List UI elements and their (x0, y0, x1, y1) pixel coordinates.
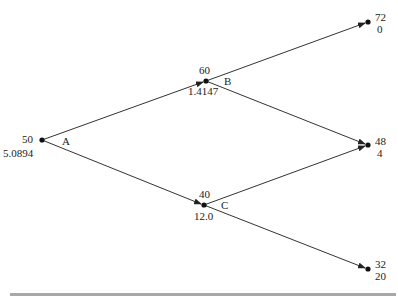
node-a-value: 5.0894 (3, 147, 34, 159)
node-t1-dot (365, 19, 370, 24)
bottom-rule (10, 293, 396, 296)
node-t3-price: 32 (375, 258, 386, 270)
node-b-value: 1.4147 (188, 85, 219, 97)
binomial-tree-diagram: 50 5.0894 A 60 1.4147 B 40 12.0 C 72 0 4… (0, 0, 398, 299)
edge-c-t3 (204, 205, 365, 268)
edge-b-t2 (206, 81, 365, 144)
node-t2-value: 4 (377, 147, 383, 159)
node-t1-price: 72 (375, 11, 386, 23)
node-t3-value: 20 (375, 270, 387, 282)
node-b-name: B (224, 75, 231, 87)
node-b-dot (203, 78, 208, 83)
node-b-price: 60 (199, 64, 211, 76)
node-a-dot (39, 137, 44, 142)
edge-a-b (42, 82, 203, 140)
node-c-price: 40 (199, 188, 211, 200)
node-t3-dot (365, 266, 370, 271)
edge-b-t1 (206, 23, 365, 81)
node-c-value: 12.0 (194, 210, 214, 222)
node-t2-price: 48 (375, 135, 387, 147)
node-t1-value: 0 (377, 23, 383, 35)
node-c-dot (201, 202, 206, 207)
node-c-name: C (221, 199, 228, 211)
node-t2-dot (365, 142, 370, 147)
node-a-price: 50 (22, 133, 34, 145)
edge-a-c (42, 140, 201, 204)
edge-c-t2 (204, 146, 365, 205)
node-a-name: A (62, 135, 70, 147)
